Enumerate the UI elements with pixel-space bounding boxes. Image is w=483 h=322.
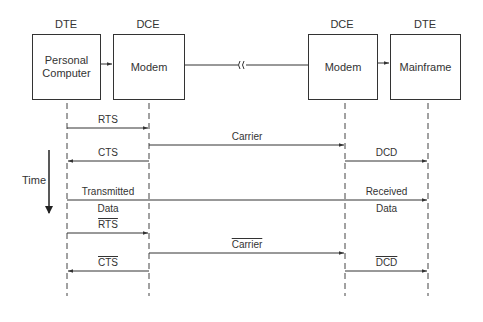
personal-computer-box: Personal Computer [32,34,101,100]
role-label-dte-left: DTE [31,18,101,30]
signal-label-rts: RTS [67,114,149,125]
local-modem-box: Modem [113,34,185,100]
remote-modem-box: Modem [308,34,378,100]
time-axis-label: Time [22,174,46,186]
link-break-icon [239,61,245,69]
signal-label-carrier: Carrier [149,131,345,142]
personal-computer-label: Personal Computer [42,54,90,80]
signal-label-dcd: DCD [345,147,428,158]
signal-label-carrier-negated: Carrier [149,239,345,250]
mainframe-box: Mainframe [390,34,461,100]
signal-label-rts-negated: RTS [67,219,149,230]
signal-label-received-data: Data [345,203,428,214]
signal-label-cts-negated: CTS [67,257,149,268]
role-label-dce-left: DCE [113,18,183,30]
signal-label-dcd-negated: DCD [345,257,428,268]
role-label-dte-right: DTE [390,18,460,30]
local-modem-label: Modem [131,61,168,74]
mainframe-label: Mainframe [400,61,452,74]
connection-modem-modem [184,61,308,69]
role-label-dce-right: DCE [307,18,377,30]
signal-label-transmitted-data: Data [67,203,149,214]
signal-label-cts: CTS [67,147,149,158]
remote-modem-label: Modem [325,61,362,74]
signal-label-transmitted: Transmitted [67,186,149,197]
signal-label-received: Received [345,186,428,197]
